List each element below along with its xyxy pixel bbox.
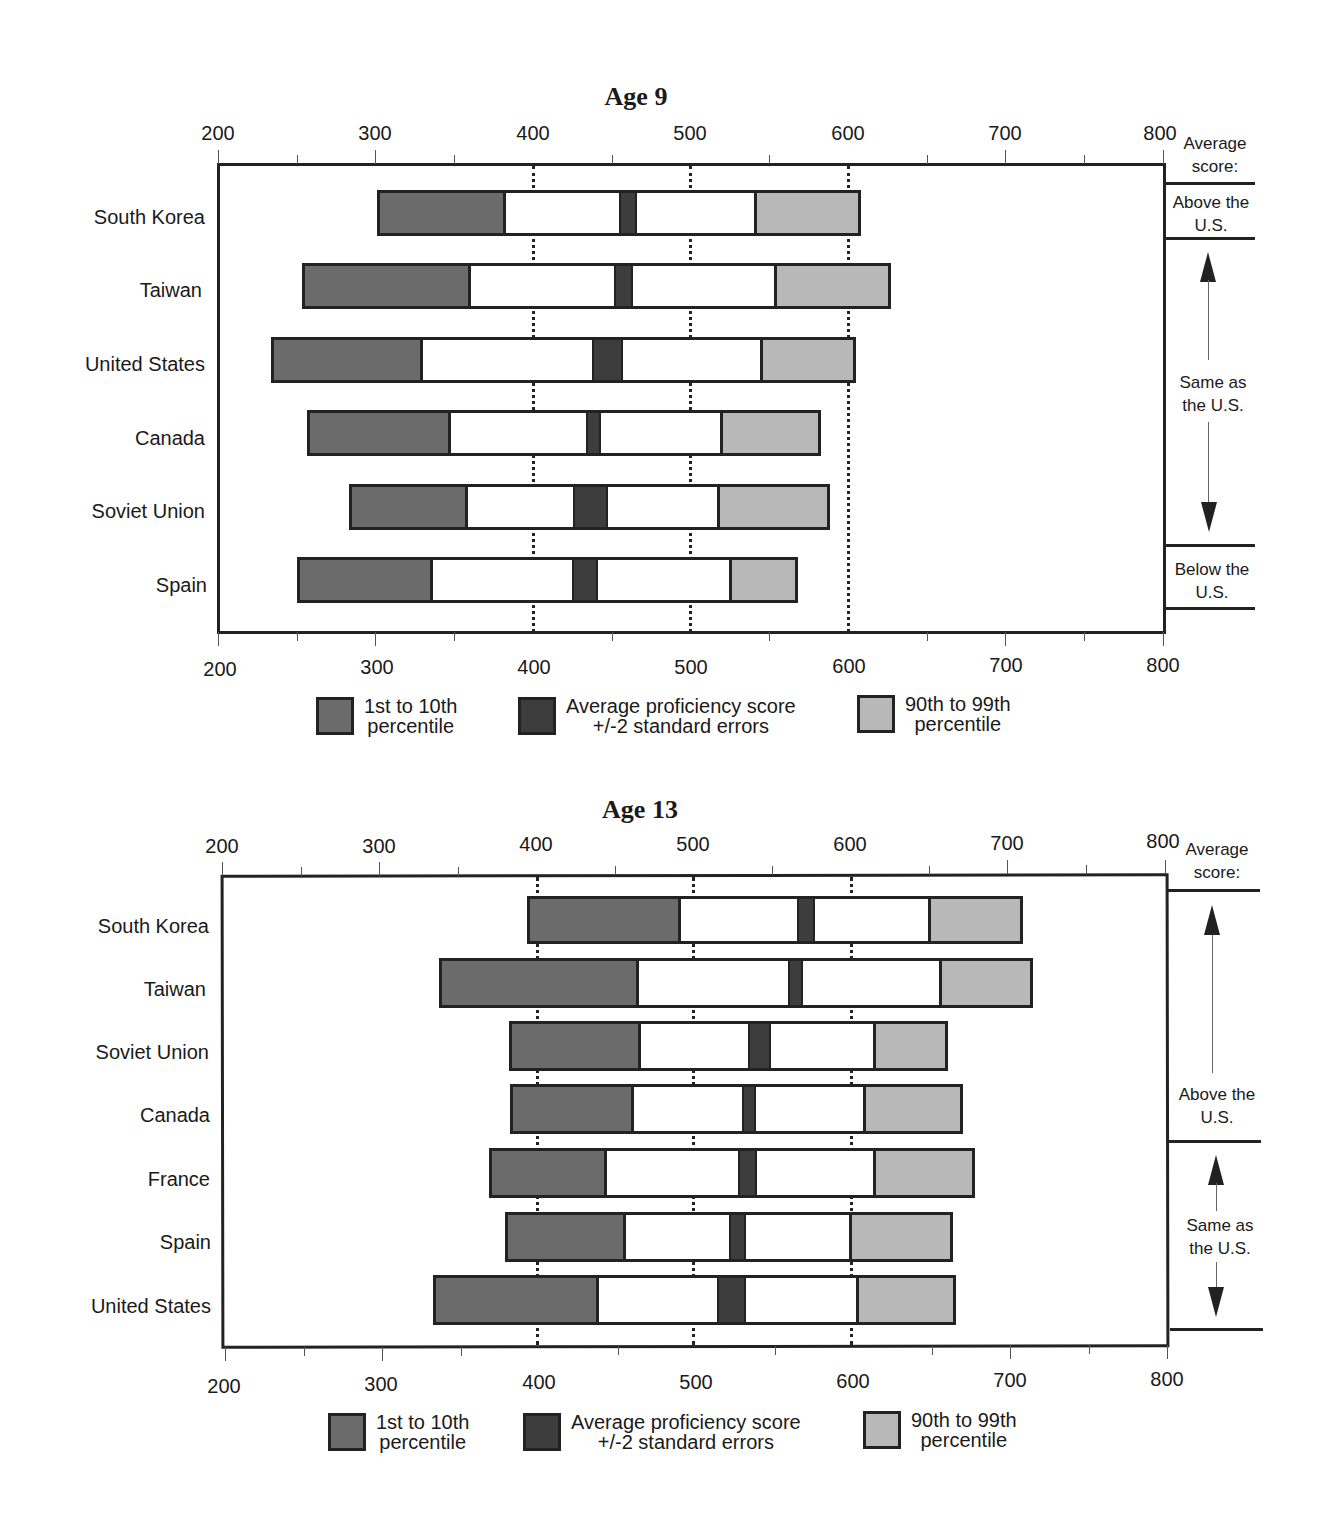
arrow-shaft	[1216, 1183, 1217, 1211]
segment-10th-avg	[607, 1151, 738, 1195]
bar-soviet-union	[509, 1021, 948, 1071]
segment-90th-99th	[856, 1278, 953, 1322]
segment-avg-90th	[756, 1087, 863, 1131]
tick-label-top: 700	[990, 832, 1023, 855]
arrow-shaft	[1212, 935, 1213, 1073]
segment-avg-90th	[746, 1215, 849, 1259]
segment-10th-avg	[634, 1087, 742, 1131]
row-label: South Korea	[9, 915, 209, 938]
segment-90th-99th	[928, 899, 1020, 941]
tick-label-bottom: 500	[679, 1371, 712, 1394]
legend-swatch-average	[523, 1413, 561, 1451]
row-label: United States	[11, 1295, 211, 1318]
segment-1st-10th	[436, 1278, 599, 1322]
axis-tick	[382, 1347, 383, 1361]
segment-90th-99th	[939, 961, 1030, 1005]
chart-title: Age 13	[490, 795, 790, 825]
axis-tick	[222, 862, 223, 876]
axis-tick	[772, 866, 773, 875]
axis-tick	[1007, 860, 1008, 874]
segment-average	[748, 1024, 771, 1068]
segment-1st-10th	[512, 1024, 641, 1068]
segment-1st-10th	[492, 1151, 607, 1195]
row-label: Soviet Union	[9, 1041, 209, 1064]
arrow-up-icon	[1204, 905, 1220, 935]
tick-label-bottom: 300	[364, 1373, 397, 1396]
segment-avg-90th	[746, 1278, 856, 1322]
row-label: Canada	[10, 1104, 210, 1127]
segment-average	[797, 899, 815, 941]
axis-tick	[1167, 1345, 1168, 1359]
tick-label-bottom: 400	[522, 1371, 555, 1394]
axis-tick	[1089, 1345, 1090, 1354]
bar-taiwan	[439, 958, 1033, 1008]
tick-label-top: 300	[362, 835, 395, 858]
axis-tick	[929, 866, 930, 875]
segment-1st-10th	[530, 899, 681, 941]
axis-tick	[461, 1347, 462, 1356]
segment-10th-avg	[681, 899, 797, 941]
segment-avg-90th	[815, 899, 928, 941]
side-divider	[1167, 889, 1260, 892]
axis-tick	[225, 1347, 226, 1361]
chart-age-13: Age 13 200 300 400 500 600 700 800 South…	[0, 0, 1332, 1518]
tick-label-bottom: 800	[1150, 1368, 1183, 1391]
axis-tick	[615, 866, 616, 875]
segment-10th-avg	[599, 1278, 717, 1322]
segment-average	[729, 1215, 746, 1259]
tick-label-bottom: 200	[207, 1375, 240, 1398]
bar-france	[489, 1148, 975, 1198]
axis-tick	[1010, 1345, 1011, 1359]
tick-label-top: 500	[676, 833, 709, 856]
segment-avg-90th	[803, 961, 939, 1005]
segment-10th-avg	[639, 961, 788, 1005]
row-label: Taiwan	[6, 978, 206, 1001]
legend-item-low: 1st to 10thpercentile	[328, 1412, 469, 1452]
tick-label-bottom: 700	[993, 1369, 1026, 1392]
side-above: Above the U.S.	[1162, 1083, 1272, 1129]
tick-label-top: 600	[833, 833, 866, 856]
arrow-shaft	[1216, 1262, 1217, 1288]
legend-swatch-low	[328, 1413, 366, 1451]
segment-average	[788, 961, 803, 1005]
axis-tick	[775, 1346, 776, 1355]
row-label: France	[10, 1168, 210, 1191]
segment-10th-avg	[641, 1024, 748, 1068]
tick-label-top: 200	[205, 835, 238, 858]
side-header: Average score:	[1162, 838, 1272, 884]
legend-item-high: 90th to 99thpercentile	[863, 1410, 1017, 1450]
segment-1st-10th	[442, 961, 639, 1005]
segment-average	[742, 1087, 756, 1131]
segment-average	[738, 1151, 757, 1195]
bar-canada	[510, 1084, 963, 1134]
arrow-up-icon	[1208, 1155, 1224, 1185]
axis-tick	[301, 867, 302, 876]
row-label: Spain	[11, 1231, 211, 1254]
axis-tick	[458, 867, 459, 876]
side-divider	[1170, 1328, 1263, 1331]
tick-label-bottom: 600	[836, 1370, 869, 1393]
segment-avg-90th	[771, 1024, 873, 1068]
arrow-down-icon	[1208, 1287, 1224, 1317]
legend-item-average: Average proficiency score+/-2 standard e…	[523, 1412, 801, 1452]
bar-south-korea	[527, 896, 1023, 944]
side-same: Same as the U.S.	[1165, 1214, 1275, 1260]
axis-tick	[618, 1346, 619, 1355]
axis-tick	[379, 862, 380, 876]
segment-average	[717, 1278, 746, 1322]
axis-tick	[304, 1347, 305, 1356]
segment-10th-avg	[626, 1215, 729, 1259]
axis-tick	[932, 1346, 933, 1355]
segment-1st-10th	[513, 1087, 634, 1131]
segment-90th-99th	[873, 1024, 945, 1068]
side-divider	[1168, 1140, 1261, 1143]
bar-spain	[505, 1212, 953, 1262]
axis-tick	[1086, 865, 1087, 874]
segment-avg-90th	[757, 1151, 873, 1195]
segment-90th-99th	[849, 1215, 950, 1259]
segment-90th-99th	[863, 1087, 960, 1131]
legend-swatch-high	[863, 1411, 901, 1449]
segment-1st-10th	[508, 1215, 626, 1259]
segment-90th-99th	[873, 1151, 972, 1195]
bar-united-states	[433, 1275, 956, 1325]
